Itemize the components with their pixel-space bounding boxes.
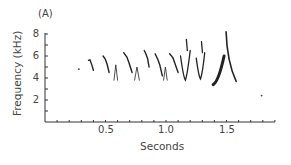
- panel-label: (A): [38, 8, 53, 19]
- syllable-mark: [213, 56, 224, 85]
- syllable-mark: [144, 51, 149, 68]
- syllable-mark: [261, 95, 263, 97]
- syllable-mark: [164, 67, 168, 80]
- x-tick-label: 1.0: [154, 124, 178, 135]
- syllable-mark: [124, 53, 132, 73]
- x-tick-label: 0.5: [94, 124, 118, 135]
- syllable-mark: [78, 68, 80, 70]
- syllable-mark: [89, 60, 94, 70]
- syllable-mark: [226, 32, 236, 82]
- spectrogram-marks: [78, 32, 263, 97]
- syllable-mark: [155, 54, 162, 76]
- syllable-mark: [103, 56, 109, 73]
- y-tick-label: 6: [29, 50, 39, 61]
- y-tick-label: 2: [29, 94, 39, 105]
- x-tick-label: 1.5: [215, 124, 239, 135]
- syllable-mark: [181, 40, 191, 81]
- syllable-mark: [114, 65, 118, 80]
- axes: [45, 33, 275, 122]
- y-tick-label: 8: [29, 28, 39, 39]
- x-axis-label: Seconds: [140, 140, 184, 152]
- syllable-mark: [135, 67, 140, 80]
- y-tick-label: 4: [29, 72, 39, 83]
- y-axis-label: Frequency (kHz): [11, 36, 23, 116]
- syllable-mark: [196, 42, 204, 79]
- syllable-mark: [170, 54, 178, 73]
